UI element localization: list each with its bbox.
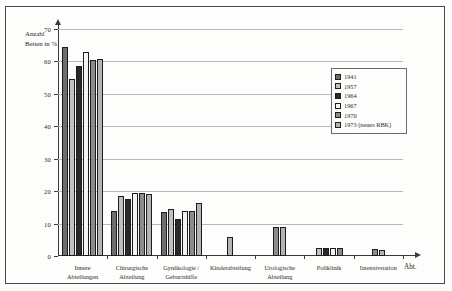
y-tick-label: 60 <box>44 58 51 65</box>
legend-label: 1973 (neues RBK) <box>344 121 391 128</box>
legend-label: 1941 <box>344 73 357 80</box>
bar <box>227 237 233 256</box>
bar <box>118 196 124 256</box>
legend-label: 1970 <box>344 112 357 119</box>
x-tick-mark <box>403 255 404 259</box>
y-tick-label: 10 <box>44 220 51 227</box>
category-label-line: Innere <box>67 263 98 272</box>
y-tick-label: 50 <box>44 90 51 97</box>
category-label-line: Abteilungen <box>67 272 98 281</box>
y-tick-label: 40 <box>44 123 51 130</box>
plot-area: 010203040506070 <box>58 29 403 256</box>
x-axis-end-label: Abt. <box>404 263 417 271</box>
bar <box>125 199 131 256</box>
bar <box>330 248 336 256</box>
category-label: InnereAbteilungen <box>67 263 98 281</box>
category-label: Poliklinik <box>317 263 342 272</box>
bar <box>168 209 174 256</box>
x-tick-mark <box>206 255 207 259</box>
category-label: Intensivstation <box>360 263 397 272</box>
legend-swatch-icon <box>335 103 341 109</box>
bar-group <box>304 29 353 256</box>
bar <box>189 211 195 256</box>
legend-swatch-icon <box>335 122 341 128</box>
bar <box>132 193 138 256</box>
bar <box>90 60 96 256</box>
legend-label: 1967 <box>344 102 357 109</box>
bar <box>111 211 117 256</box>
chart-frame: Anzahl Betten in % 010203040506070 Inner… <box>5 6 445 284</box>
bar <box>97 59 103 256</box>
bar <box>273 227 279 256</box>
legend-item: 1941 <box>335 72 402 82</box>
bar <box>182 211 188 256</box>
legend-item: 1957 <box>335 82 402 92</box>
bar-group <box>107 29 156 256</box>
y-axis-title: Anzahl Betten in % <box>25 29 57 48</box>
bar-group <box>157 29 206 256</box>
bar-group <box>354 29 403 256</box>
legend-label: 1964 <box>344 92 357 99</box>
bar <box>146 194 152 256</box>
chart-legend: 194119571964196719701973 (neues RBK) <box>331 68 407 134</box>
bar-group <box>206 29 255 256</box>
bar <box>175 219 181 256</box>
bar <box>76 66 82 256</box>
category-label-line: Urologische <box>264 263 295 272</box>
category-label-line: Abteilung <box>116 272 148 281</box>
bar <box>139 193 145 256</box>
category-label: Gynäkologie /Geburtshilfe <box>163 263 199 281</box>
y-axis-title-line2: Betten in % <box>25 39 57 49</box>
bar <box>69 79 75 256</box>
legend-label: 1957 <box>344 83 357 90</box>
bar <box>323 248 329 256</box>
category-label: ChirurgischeAbteilung <box>116 263 148 281</box>
bar <box>372 249 378 256</box>
category-label-line: Abteilung <box>264 272 295 281</box>
bar <box>196 203 202 257</box>
bar-group <box>58 29 107 256</box>
y-tick-label: 0 <box>48 253 52 260</box>
y-tick-label: 30 <box>44 155 51 162</box>
legend-item: 1970 <box>335 110 402 120</box>
bar-group <box>255 29 304 256</box>
legend-item: 1964 <box>335 91 402 101</box>
legend-swatch-icon <box>335 74 341 80</box>
x-tick-mark <box>107 255 108 259</box>
chart-page: Anzahl Betten in % 010203040506070 Inner… <box>0 0 452 291</box>
x-tick-mark <box>157 255 158 259</box>
legend-swatch-icon <box>335 93 341 99</box>
bar <box>161 212 167 256</box>
y-tick-mark <box>54 256 58 257</box>
legend-swatch-icon <box>335 112 341 118</box>
bar <box>337 248 343 256</box>
y-tick-label: 70 <box>44 26 51 33</box>
legend-item: 1973 (neues RBK) <box>335 120 402 130</box>
x-tick-mark <box>255 255 256 259</box>
category-label-line: Gynäkologie / <box>163 263 199 272</box>
y-axis-title-line1: Anzahl <box>25 29 57 39</box>
bar <box>62 47 68 256</box>
bar <box>316 248 322 256</box>
category-label: Kinderabteilung <box>210 263 251 272</box>
bar <box>280 227 286 256</box>
bar <box>83 52 89 256</box>
category-label-line: Geburtshilfe <box>163 272 199 281</box>
x-tick-mark <box>304 255 305 259</box>
legend-swatch-icon <box>335 83 341 89</box>
category-label: UrologischeAbteilung <box>264 263 295 281</box>
y-tick-label: 20 <box>44 188 51 195</box>
category-label-line: Chirurgische <box>116 263 148 272</box>
bar <box>379 250 385 256</box>
legend-item: 1967 <box>335 101 402 111</box>
x-tick-mark <box>354 255 355 259</box>
